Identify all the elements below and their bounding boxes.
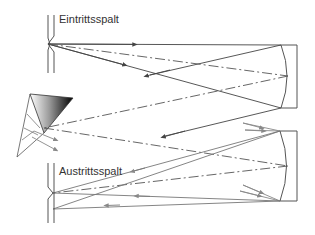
entrance-slit-label: Eintrittsspalt — [59, 14, 119, 25]
prism — [17, 94, 73, 157]
collimated-beam — [146, 45, 281, 137]
exit-slit-label: Austrittsspalt — [59, 166, 122, 177]
exit-slit — [48, 163, 54, 223]
focusing-mirror — [280, 131, 297, 201]
collimating-mirror — [281, 45, 297, 108]
entrance-beam — [48, 44, 281, 108]
spectrometer-diagram — [0, 0, 315, 235]
